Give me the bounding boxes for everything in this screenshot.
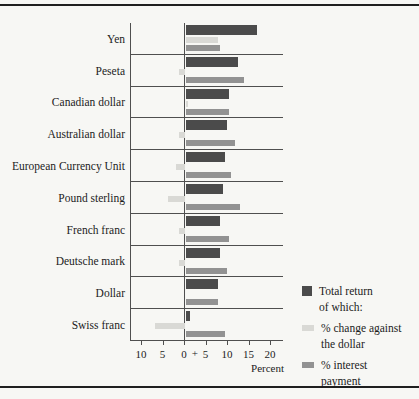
category-label: Australian dollar xyxy=(0,118,125,150)
bar-total-return xyxy=(186,89,229,99)
category-label: Canadian dollar xyxy=(0,87,125,119)
bar-change-against-dollar xyxy=(155,323,185,329)
axis-tick-label: 5 xyxy=(203,348,209,360)
legend-label-line: payment xyxy=(321,375,361,387)
plot-area xyxy=(130,23,283,341)
category-label: Deutsche mark xyxy=(0,246,125,278)
currency-row xyxy=(131,87,283,119)
bar-total-return xyxy=(186,279,218,289)
category-label: Swiss franc xyxy=(0,309,125,341)
axis-tick-label: 5 xyxy=(160,348,166,360)
category-label: French franc xyxy=(0,214,125,246)
axis-tick-mark xyxy=(227,341,228,345)
bar-interest-payment xyxy=(186,236,229,242)
axis-plus-sign: + xyxy=(192,347,198,359)
category-label: Dollar xyxy=(0,277,125,309)
bar-change-against-dollar xyxy=(179,69,185,75)
bar-total-return xyxy=(186,184,223,194)
frame-top-rule xyxy=(0,4,419,6)
bar-change-against-dollar xyxy=(179,260,185,266)
legend-item-change-against-dollar: % change againstthe dollar xyxy=(302,320,417,352)
category-label: Yen xyxy=(0,23,125,55)
legend-label-interest-payment: % interestpayment xyxy=(321,357,367,389)
currency-row xyxy=(131,246,283,278)
legend-label-line: Total return xyxy=(319,285,373,297)
axis-tick-label: 10 xyxy=(136,348,147,360)
bar-interest-payment xyxy=(186,77,244,83)
bar-interest-payment xyxy=(186,331,225,337)
bar-interest-payment xyxy=(186,268,227,274)
axis-tick-mark xyxy=(163,341,164,345)
bar-change-against-dollar xyxy=(176,164,185,170)
axis-tick-label: 10 xyxy=(222,348,233,360)
category-label: European Currency Unit xyxy=(0,150,125,182)
bar-total-return xyxy=(186,25,257,35)
bar-interest-payment xyxy=(186,172,231,178)
bar-total-return xyxy=(186,120,227,130)
bar-interest-payment xyxy=(186,45,220,51)
currency-row xyxy=(131,277,283,309)
currency-row xyxy=(131,150,283,182)
category-label: Pound sterling xyxy=(0,182,125,214)
bar-interest-payment xyxy=(186,299,218,305)
axis-tick-mark xyxy=(184,341,185,345)
bar-total-return xyxy=(186,311,190,321)
axis-tick-mark xyxy=(270,341,271,345)
bar-total-return xyxy=(186,57,238,67)
currency-row xyxy=(131,182,283,214)
legend-label-line: of which: xyxy=(319,301,363,313)
legend: Total returnof which: % change againstth… xyxy=(302,283,417,394)
bar-interest-payment xyxy=(186,109,229,115)
bar-interest-payment xyxy=(186,140,235,146)
bar-change-against-dollar xyxy=(186,37,218,43)
bar-total-return xyxy=(186,152,225,162)
legend-swatch-total-return xyxy=(302,286,312,296)
bar-total-return xyxy=(186,248,220,258)
currency-row xyxy=(131,118,283,150)
bar-change-against-dollar xyxy=(179,228,185,234)
x-axis-unit-label: Percent xyxy=(251,362,284,374)
category-label: Peseta xyxy=(0,55,125,87)
axis-tick-label: 0 xyxy=(181,348,187,360)
currency-row xyxy=(131,214,283,246)
axis-tick-label: 20 xyxy=(265,348,276,360)
legend-label-change-against-dollar: % change againstthe dollar xyxy=(321,320,401,352)
axis-tick-mark xyxy=(249,341,250,345)
bar-change-against-dollar xyxy=(179,132,185,138)
figure-canvas: YenPesetaCanadian dollarAustralian dolla… xyxy=(0,0,419,399)
bar-change-against-dollar xyxy=(168,196,185,202)
legend-swatch-change-against-dollar xyxy=(302,325,314,331)
bar-interest-payment xyxy=(186,204,240,210)
legend-label-line: the dollar xyxy=(321,338,365,350)
currency-row xyxy=(131,23,283,55)
bar-total-return xyxy=(186,216,220,226)
currency-row xyxy=(131,55,283,87)
legend-label-line: % interest xyxy=(321,359,367,371)
axis-tick-label: 15 xyxy=(243,348,254,360)
legend-swatch-interest-payment xyxy=(302,362,314,368)
legend-item-total-return: Total returnof which: xyxy=(302,283,417,315)
axis-tick-mark xyxy=(141,341,142,345)
legend-item-interest-payment: % interestpayment xyxy=(302,357,417,389)
currency-row xyxy=(131,309,283,341)
bar-change-against-dollar xyxy=(186,101,188,107)
legend-label-total-return: Total returnof which: xyxy=(319,283,373,315)
legend-label-line: % change against xyxy=(321,322,401,334)
axis-tick-mark xyxy=(206,341,207,345)
